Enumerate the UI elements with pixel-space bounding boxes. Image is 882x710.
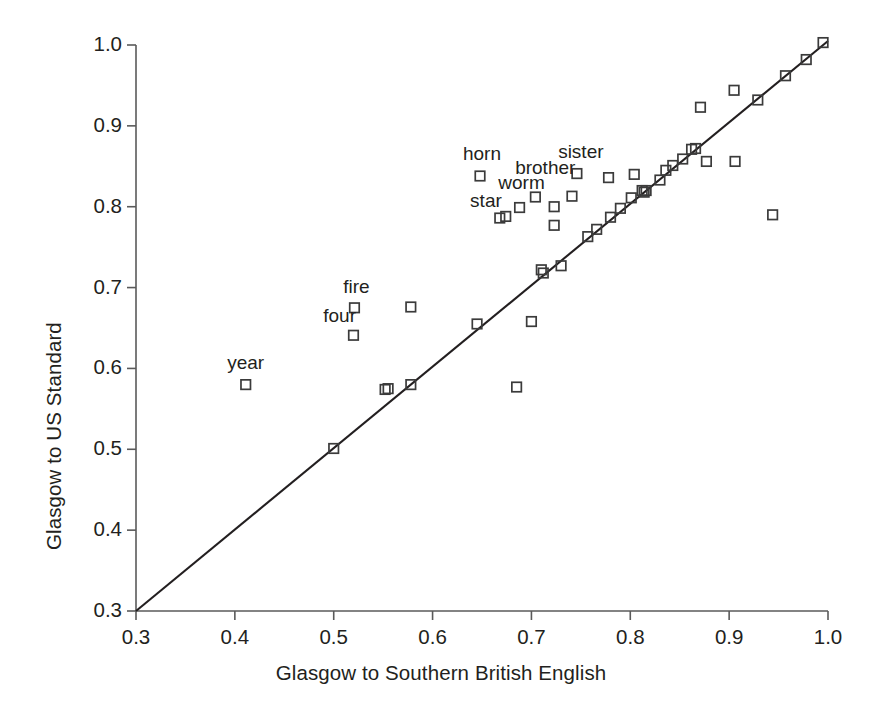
point-label-fire: fire [296,276,416,298]
data-point-marker [406,302,416,312]
x-tick-label: 0.8 [600,625,660,649]
x-tick-label: 0.4 [205,625,265,649]
x-tick-label: 0.6 [403,625,463,649]
x-tick-label: 0.5 [304,625,364,649]
x-tick-label: 1.0 [798,625,858,649]
data-point-marker [241,380,251,390]
data-point-marker [629,170,639,180]
data-point-marker [768,210,778,220]
data-point-marker [527,317,537,327]
point-label-four: four [280,305,400,327]
y-tick-label: 0.4 [62,517,122,541]
y-tick-label: 0.6 [62,355,122,379]
data-point-marker [549,221,559,231]
x-axis-title: Glasgow to Southern British English [0,661,882,685]
x-tick-label: 0.3 [106,625,166,649]
point-label-sister: sister [521,141,641,163]
plot-canvas [0,0,882,710]
data-point-markers [241,38,828,453]
y-tick-label: 0.5 [62,436,122,460]
y-tick-label: 0.9 [62,113,122,137]
data-point-marker [729,86,739,96]
y-axis-title: Glasgow to US Standard [42,322,66,550]
scatter-plot-figure: 0.30.40.50.60.70.80.91.0 0.30.40.50.60.7… [0,0,882,710]
y-tick-label: 0.3 [62,598,122,622]
point-label-year: year [186,352,306,374]
data-point-marker [549,202,559,212]
data-point-marker [349,331,359,341]
x-tick-label: 0.9 [699,625,759,649]
data-point-marker [730,157,740,167]
data-point-marker [702,157,712,167]
y-tick-label: 0.7 [62,275,122,299]
y-tick-label: 1.0 [62,32,122,56]
y-tick-label: 0.8 [62,194,122,218]
axis-tick-marks [127,45,828,620]
x-tick-label: 0.7 [501,625,561,649]
data-point-marker [512,382,521,392]
data-point-marker [696,103,706,113]
